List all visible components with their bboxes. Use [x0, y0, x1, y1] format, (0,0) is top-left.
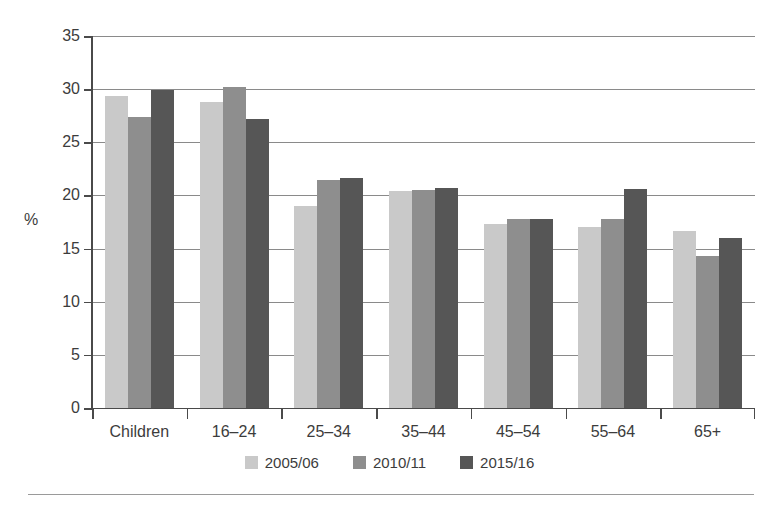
y-tick-label-15: 15: [36, 241, 80, 257]
bar: [246, 119, 269, 408]
bar-group: [484, 36, 553, 408]
x-tick: [187, 409, 189, 419]
bar: [340, 178, 363, 408]
chart-legend: 2005/062010/112015/16: [0, 455, 779, 470]
y-tick-15: [84, 249, 92, 251]
y-tick-label-25: 25: [36, 134, 80, 150]
legend-swatch-icon: [245, 456, 258, 469]
chart-figure: 05101520253035 % Children16–2425–3435–44…: [0, 0, 779, 505]
bar: [317, 180, 340, 409]
legend-item[interactable]: 2010/11: [353, 455, 426, 470]
bar: [578, 227, 601, 408]
x-tick: [754, 409, 756, 419]
x-tick: [471, 409, 473, 419]
bar: [105, 96, 128, 408]
x-tick-label: 16–24: [187, 422, 282, 441]
bar: [412, 190, 435, 408]
bar: [624, 189, 647, 408]
y-tick-10: [84, 302, 92, 304]
plot-area: [92, 36, 755, 408]
bar-group: [578, 36, 647, 408]
page-divider-rule: [28, 494, 754, 495]
bar: [719, 238, 742, 408]
x-axis-ticks: [92, 409, 755, 419]
x-tick: [92, 409, 94, 419]
x-tick: [281, 409, 283, 419]
x-tick-label: 45–54: [471, 422, 566, 441]
x-tick: [660, 409, 662, 419]
y-tick-label-35: 35: [36, 28, 80, 44]
bar: [696, 256, 719, 408]
bar: [507, 219, 530, 408]
legend-label: 2005/06: [265, 455, 319, 470]
legend-label: 2015/16: [480, 455, 534, 470]
bar: [484, 224, 507, 408]
x-tick: [376, 409, 378, 419]
y-tick-5: [84, 355, 92, 357]
bar: [389, 191, 412, 408]
y-tick-label-30: 30: [36, 81, 80, 97]
bar: [530, 219, 553, 408]
bar: [128, 117, 151, 408]
legend-swatch-icon: [353, 456, 366, 469]
bar: [673, 231, 696, 408]
y-tick-label-5: 5: [36, 347, 80, 363]
legend-item[interactable]: 2005/06: [245, 455, 319, 470]
bar-group: [294, 36, 363, 408]
legend-swatch-icon: [460, 456, 473, 469]
y-tick-label-10: 10: [36, 294, 80, 310]
x-tick-label: 65+: [660, 422, 755, 441]
x-tick-label: 35–44: [376, 422, 471, 441]
y-tick-label-20: 20: [36, 187, 80, 203]
x-tick-label: Children: [92, 422, 187, 441]
x-tick-label: 25–34: [281, 422, 376, 441]
y-tick-35: [84, 36, 92, 38]
bar: [294, 206, 317, 408]
bar: [223, 87, 246, 408]
y-tick-25: [84, 142, 92, 144]
y-tick-0: [84, 408, 92, 410]
bar-group: [673, 36, 742, 408]
x-tick-label: 55–64: [566, 422, 661, 441]
bar-group: [200, 36, 269, 408]
bar-group: [105, 36, 174, 408]
legend-label: 2010/11: [373, 455, 426, 470]
x-axis-tick-labels: Children16–2425–3435–4445–5455–6465+: [92, 422, 755, 446]
y-tick-label-0: 0: [36, 400, 80, 416]
y-axis-tick-labels: 05101520253035: [22, 0, 80, 505]
x-tick: [566, 409, 568, 419]
y-axis-label: %: [24, 211, 38, 229]
y-tick-30: [84, 89, 92, 91]
bar-group: [389, 36, 458, 408]
y-tick-20: [84, 195, 92, 197]
legend-item[interactable]: 2015/16: [460, 455, 534, 470]
bar: [200, 102, 223, 408]
bar: [601, 219, 624, 408]
bar: [151, 90, 174, 408]
y-axis-line: [91, 36, 93, 409]
bar: [435, 188, 458, 408]
